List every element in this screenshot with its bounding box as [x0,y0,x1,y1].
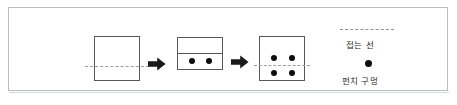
fold-line-icon [85,66,149,67]
diagram-frame: 접는 선 펀치 구멍 [8,7,448,91]
fold-line-icon [254,65,310,66]
frame-drop-shadow [9,92,449,93]
legend-label-punch-hole: 펀치 구멍 [305,76,415,87]
arrow-right-icon [231,54,249,68]
punch-hole [271,55,277,61]
fold-line-sample-icon [340,29,394,30]
punch-hole [271,70,277,76]
punch-hole-sample-icon [365,60,372,67]
arrow-right-icon [148,56,166,70]
punch-hole [189,58,195,64]
legend-label-fold-line: 접는 선 [305,40,415,51]
punch-hole [289,70,295,76]
punch-hole [206,58,212,64]
folded-edge-line [177,53,223,54]
punch-hole [289,55,295,61]
diagram-screenshot: 접는 선 펀치 구멍 [0,0,457,105]
paper-sheet-square-punched [259,36,305,81]
paper-sheet-square [94,36,140,81]
legend: 접는 선 펀치 구멍 [327,24,437,92]
